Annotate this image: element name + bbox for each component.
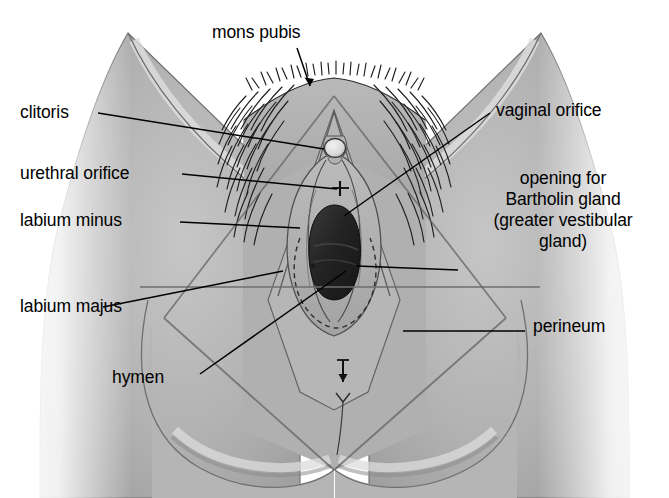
- label-bartholin-gland: opening for Bartholin gland (greater ves…: [464, 168, 662, 252]
- label-labium-majus: labium majus: [20, 296, 122, 316]
- bartholin-line-2: Bartholin gland: [464, 189, 662, 210]
- label-hymen: hymen: [112, 367, 164, 387]
- bartholin-line-3: (greater vestibular: [464, 210, 662, 231]
- label-perineum: perineum: [533, 316, 605, 336]
- label-labium-minus: labium minus: [20, 210, 122, 230]
- vaginal-orifice: [309, 205, 361, 300]
- bartholin-line-1: opening for: [464, 168, 662, 189]
- label-clitoris: clitoris: [20, 102, 69, 122]
- label-vaginal-orifice: vaginal orifice: [496, 100, 602, 120]
- bartholin-line-4: gland): [464, 231, 662, 252]
- label-mons-pubis: mons pubis: [212, 22, 301, 42]
- anatomical-figure: mons pubis clitoris urethral orifice lab…: [0, 0, 669, 498]
- label-urethral-orifice: urethral orifice: [20, 163, 129, 183]
